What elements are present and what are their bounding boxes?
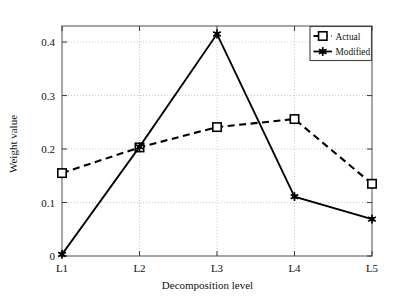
x-tick-label: L5 [366, 262, 379, 274]
line-chart: 00.10.20.30.4 L1L2L3L4L5 ActualModified [0, 0, 415, 300]
x-tick-label: L1 [56, 262, 68, 274]
data-point-marker-square [290, 115, 298, 123]
x-tick-label: L4 [288, 262, 301, 274]
x-axis-tick-labels: L1L2L3L4L5 [56, 262, 379, 274]
data-point-marker-square [213, 123, 221, 131]
data-point-marker-square [58, 169, 66, 177]
y-axis-title: Weight value [7, 94, 19, 194]
y-axis-tick-labels: 00.10.20.30.4 [41, 36, 55, 262]
chart-figure: 00.10.20.30.4 L1L2L3L4L5 ActualModified … [0, 0, 415, 300]
legend-label: Modified [336, 47, 371, 57]
y-tick-label: 0 [50, 250, 56, 262]
y-tick-label: 0.2 [41, 143, 55, 155]
y-tick-label: 0.1 [41, 197, 55, 209]
x-tick-label: L3 [211, 262, 224, 274]
legend-entry-actual[interactable]: Actual [314, 32, 361, 42]
y-tick-label: 0.3 [41, 90, 55, 102]
data-point-marker-square [319, 32, 327, 40]
x-axis-title: Decomposition level [0, 279, 415, 291]
x-tick-label: L2 [133, 262, 145, 274]
chart-legend[interactable]: ActualModified [310, 27, 372, 61]
legend-label: Actual [336, 32, 361, 42]
data-point-marker-square [368, 180, 376, 188]
y-tick-label: 0.4 [41, 36, 55, 48]
legend-entry-modified[interactable]: Modified [314, 47, 371, 57]
